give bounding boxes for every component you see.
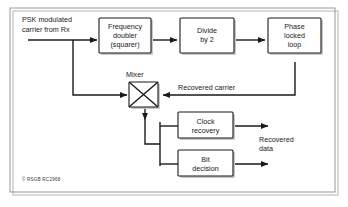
block-phase-locked-loop: Phase locked loop [268,18,323,55]
block-phase-locked-loop-line-2: locked [284,31,305,40]
label-recovered-data-line-1: Recovered [259,135,294,144]
block-divide-by-2-line-1: Divide [197,26,217,35]
block-clock-recovery-line-1: Clock [197,117,215,126]
label-recovered-carrier: Recovered carrier [178,83,236,92]
label-mixer: Mixer [126,70,144,79]
block-clock-recovery-line-2: recovery [192,126,220,135]
block-frequency-doubler-line-1: Frequency [108,22,142,31]
block-bit-decision-line-1: Bit [201,155,209,164]
block-phase-locked-loop-line-1: Phase [284,22,304,31]
block-clock-recovery: Clock recovery [178,112,235,140]
label-input-signal-line-2: carrier from Rx [22,25,70,34]
label-recovered-data-line-2: data [259,144,273,153]
block-frequency-doubler-line-2: doubler [113,31,138,40]
figure-credit: © RSGB RC2968 [22,176,61,182]
block-divide-by-2: Divide by 2 [180,18,236,55]
block-diagram-figure: Frequency doubler (squarer) Divide by 2 … [0,0,348,207]
block-bit-decision: Bit decision [178,150,235,178]
block-mixer [129,82,160,109]
wire-network [28,40,295,166]
block-divide-by-2-line-2: by 2 [200,35,214,44]
label-input-signal-line-1: PSK modulated [22,15,72,24]
block-bit-decision-line-2: decision [192,164,218,173]
block-frequency-doubler-line-3: (squarer) [110,40,139,49]
wire-mixer-bus [145,120,160,144]
block-phase-locked-loop-line-3: loop [288,40,302,49]
block-frequency-doubler: Frequency doubler (squarer) [99,18,153,55]
diagram-canvas: Frequency doubler (squarer) Divide by 2 … [0,0,348,207]
